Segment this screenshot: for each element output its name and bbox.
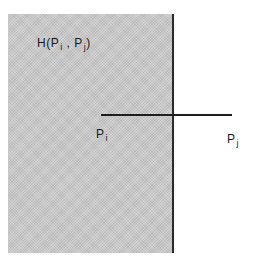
halfspace-label: H(Pi , Pj) [37,37,91,52]
point-pj-label: Pj [227,133,239,148]
bisector-boundary-line [172,14,174,253]
point-pi-label: Pi [96,128,108,143]
segment-pi-pj [101,114,232,116]
